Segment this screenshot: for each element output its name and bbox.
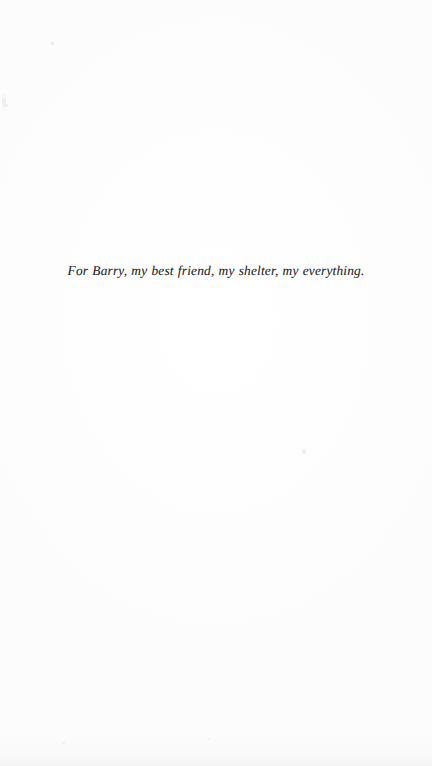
scan-edge-smudge [2, 93, 6, 112]
scan-speck [62, 742, 65, 744]
scan-bottom-shadow [0, 732, 432, 766]
page-paper-tone [0, 0, 432, 766]
scan-speck [5, 104, 8, 107]
scan-speck [208, 738, 210, 740]
scan-speck [302, 449, 306, 454]
scan-speck [51, 42, 54, 45]
dedication-page: For Barry, my best friend, my shelter, m… [0, 0, 432, 766]
dedication-text: For Barry, my best friend, my shelter, m… [0, 261, 432, 281]
